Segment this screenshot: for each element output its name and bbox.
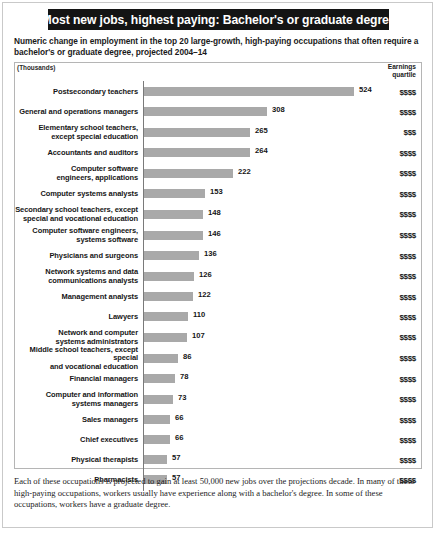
bar-track: 153 [143, 184, 375, 204]
earnings-quartile-header-line2: quartile [360, 71, 416, 79]
bar-value-label: 122 [198, 290, 211, 299]
bar [144, 395, 173, 404]
bar [144, 169, 233, 178]
category-label: Financial managers [14, 375, 143, 384]
bar-value-label: 126 [199, 270, 212, 279]
category-label-line: Physicians and surgeons [14, 252, 138, 261]
table-row: Middle school teachers, except specialan… [14, 348, 422, 369]
category-label-line: Physical therapists [14, 456, 138, 465]
bar [144, 231, 203, 240]
bar [144, 272, 194, 281]
table-row: Chief executives66$$$$ [14, 430, 422, 450]
chart-title-band: Most new jobs, highest paying: Bachelor'… [48, 9, 389, 30]
earnings-quartile-cell: $$$ [375, 128, 422, 137]
figure-container: Most new jobs, highest paying: Bachelor'… [0, 0, 436, 533]
bar-track: 122 [143, 287, 375, 307]
bar [144, 455, 167, 464]
table-row: Elementary school teachers,except specia… [14, 122, 422, 143]
bar-track: 148 [143, 205, 375, 225]
category-label: Network and computersystems administrato… [14, 329, 143, 346]
earnings-quartile-cell: $$$$ [375, 272, 422, 281]
category-label: Physical therapists [14, 456, 143, 465]
bar-track: 57 [143, 450, 375, 470]
chart-rows: Postsecondary teachers524$$$$General and… [14, 82, 422, 490]
bar [144, 354, 178, 363]
bar-track: 66 [143, 410, 375, 430]
category-label-line: except special education [14, 133, 138, 142]
category-label-line: systems software [14, 236, 138, 245]
bar [144, 312, 188, 321]
earnings-quartile-cell: $$$$ [375, 88, 422, 97]
earnings-quartile-cell: $$$$ [375, 333, 422, 342]
bar [144, 415, 170, 424]
bar-value-label: 524 [359, 85, 372, 94]
bar-track: 66 [143, 430, 375, 450]
bar [144, 128, 250, 137]
bar-value-label: 107 [192, 331, 205, 340]
category-label-line: Accountants and auditors [14, 149, 138, 158]
category-label: Computer software engineers,systems soft… [14, 227, 143, 244]
bar-track: 86 [143, 349, 375, 369]
earnings-quartile-cell: $$$$ [375, 108, 422, 117]
table-row: Accountants and auditors264$$$$ [14, 143, 422, 163]
category-label: Management analysts [14, 293, 143, 302]
earnings-quartile-cell: $$$$ [375, 293, 422, 302]
bar-track: 146 [143, 226, 375, 246]
bar-value-label: 86 [183, 352, 191, 361]
bar-value-label: 264 [255, 146, 268, 155]
category-label: Middle school teachers, except specialan… [14, 346, 143, 372]
category-label-line: General and operations managers [14, 108, 138, 117]
earnings-quartile-cell: $$$$ [375, 456, 422, 465]
category-label-line: Computer systems analysts [14, 190, 138, 199]
earnings-quartile-cell: $$$$ [375, 149, 422, 158]
earnings-quartile-cell: $$$$ [375, 416, 422, 425]
category-label-line: engineers, applications [14, 174, 138, 183]
bar-track: 264 [143, 143, 375, 163]
bar-value-label: 73 [178, 393, 186, 402]
table-row: Lawyers110$$$$ [14, 307, 422, 327]
bar-track: 524 [143, 82, 375, 102]
category-label: Secondary school teachers, exceptspecial… [14, 206, 143, 223]
earnings-quartile-cell: $$$$ [375, 375, 422, 384]
bar [144, 333, 187, 342]
table-row: Physicians and surgeons136$$$$ [14, 246, 422, 266]
table-row: Financial managers78$$$$ [14, 369, 422, 389]
bar-value-label: 78 [180, 372, 188, 381]
table-row: Computer systems analysts153$$$$ [14, 184, 422, 204]
bar-track: 73 [143, 390, 375, 410]
bar [144, 251, 199, 260]
earnings-quartile-cell: $$$$ [375, 436, 422, 445]
category-label: General and operations managers [14, 108, 143, 117]
bar-track: 308 [143, 102, 375, 122]
earnings-quartile-cell: $$$$ [375, 395, 422, 404]
chart-subtitle: Numeric change in employment in the top … [14, 36, 422, 58]
earnings-quartile-cell: $$$$ [375, 313, 422, 322]
category-label-line: communications analysts [14, 277, 138, 286]
earnings-quartile-cell: $$$$ [375, 231, 422, 240]
chart-footnote: Each of these occupations is projected t… [14, 476, 418, 511]
category-label-line: Sales managers [14, 416, 138, 425]
bar-value-label: 148 [208, 208, 221, 217]
category-label: Accountants and auditors [14, 149, 143, 158]
bar [144, 210, 203, 219]
category-label-line: Lawyers [14, 313, 138, 322]
bar [144, 87, 354, 96]
category-label-line: special and vocational education [14, 215, 138, 224]
bar-track: 265 [143, 123, 375, 143]
earnings-quartile-cell: $$$$ [375, 169, 422, 178]
category-label-line: Financial managers [14, 375, 138, 384]
bar [144, 107, 267, 116]
bar-value-label: 136 [204, 249, 217, 258]
category-label: Postsecondary teachers [14, 88, 143, 97]
bar [144, 292, 193, 301]
category-label-line: Middle school teachers, except special [14, 346, 138, 363]
category-label-line: Postsecondary teachers [14, 88, 138, 97]
category-label-line: Management analysts [14, 293, 138, 302]
table-row: Sales managers66$$$$ [14, 410, 422, 430]
bar [144, 148, 250, 157]
category-label: Network systems and datacommunications a… [14, 268, 143, 285]
table-row: Secondary school teachers, exceptspecial… [14, 204, 422, 225]
bar-track: 78 [143, 369, 375, 389]
bar-value-label: 57 [172, 453, 180, 462]
category-label: Physicians and surgeons [14, 252, 143, 261]
